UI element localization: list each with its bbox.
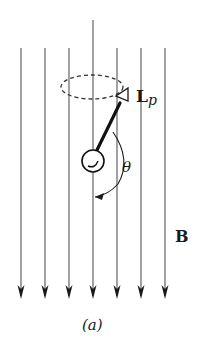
magnetic-moment-precession-diagram	[0, 0, 204, 352]
field-line	[18, 48, 25, 299]
precession-path-ellipse	[61, 75, 123, 99]
angle-theta-label: θ	[122, 160, 131, 175]
field-line	[114, 48, 121, 299]
field-line	[162, 48, 169, 299]
field-line	[42, 48, 49, 299]
figure-caption: (a)	[82, 318, 103, 333]
angle-arc-arrowhead-icon	[95, 193, 104, 200]
field-line	[66, 48, 73, 299]
magnetic-field-label: B	[175, 229, 189, 245]
spinning-particle	[82, 150, 104, 172]
angular-momentum-subscript: p	[148, 92, 157, 108]
angular-momentum-label: Lp	[136, 88, 157, 105]
